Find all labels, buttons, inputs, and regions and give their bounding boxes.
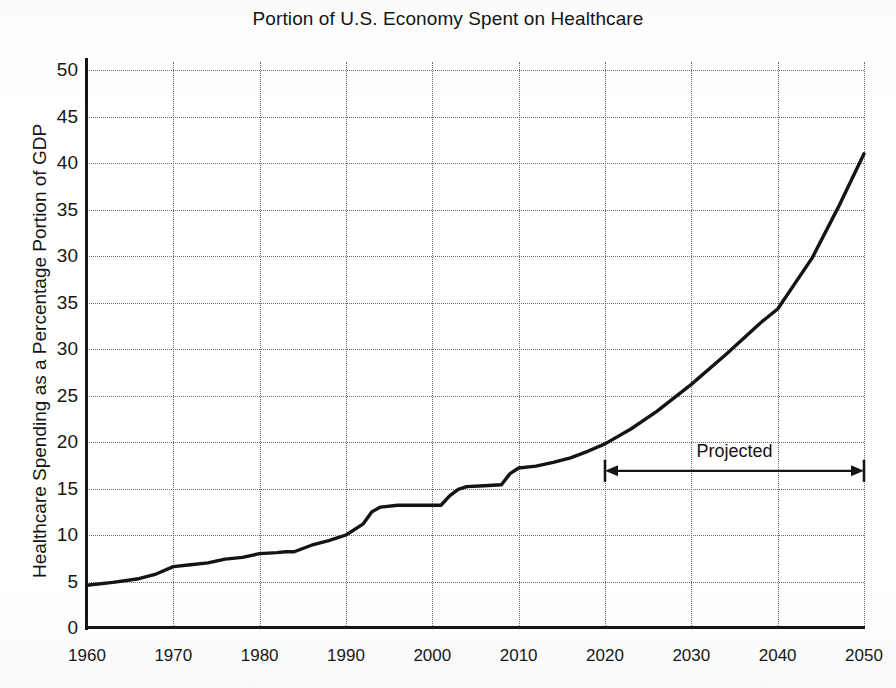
- data-series-line: [87, 154, 864, 586]
- projected-arrow-head-right: [851, 465, 864, 476]
- projected-arrow-head-left: [605, 465, 618, 476]
- projected-annotation-label: Projected: [673, 441, 797, 462]
- chart-figure: Portion of U.S. Economy Spent on Healthc…: [0, 0, 896, 688]
- series-layer: [0, 0, 896, 688]
